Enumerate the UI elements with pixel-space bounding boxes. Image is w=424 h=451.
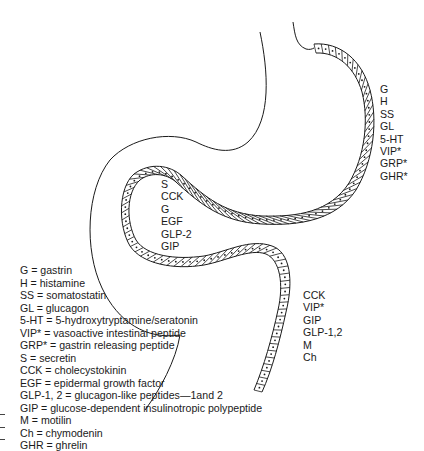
legend-entry: SS = somatostatin (20, 289, 262, 302)
legend-entry: G = gastrin (20, 264, 262, 277)
intestine-hormone-labels: CCK VIP* GIP GLP-1,2 M Ch (303, 289, 342, 363)
legend-entry: GL = glucagon (20, 302, 262, 315)
intestine-label: M (303, 339, 342, 351)
stomach-label: H (380, 95, 408, 107)
legend-entry: GLP-1, 2 = glucagon-like peptides—1and 2 (20, 389, 262, 402)
legend-entry: 5-HT = 5-hydroxytryptamine/seratonin (20, 314, 262, 327)
stomach-label: GHR* (380, 170, 408, 182)
margin-tick (0, 414, 5, 415)
stomach-hormone-labels: G H SS GL 5-HT VIP* GRP* GHR* (380, 83, 408, 182)
stomach-label: GRP* (380, 157, 408, 169)
duodenum-label: EGF (161, 215, 192, 227)
legend-entry: Ch = chymodenin (20, 427, 262, 440)
duodenum-label: S (161, 178, 192, 190)
duodenum-label: GIP (161, 240, 192, 252)
legend-entry: H = histamine (20, 277, 262, 290)
intestine-label: GLP-1,2 (303, 326, 342, 338)
margin-tick (0, 439, 5, 440)
stomach-label: 5-HT (380, 133, 408, 145)
intestine-label: GIP (303, 314, 342, 326)
abbreviation-legend: G = gastrin H = histamine SS = somatosta… (20, 264, 262, 451)
legend-entry: S = secretin (20, 352, 262, 365)
intestine-label: VIP* (303, 301, 342, 313)
legend-entry: M = motilin (20, 414, 262, 427)
duodenum-hormone-labels: S CCK G EGF GLP-2 GIP (161, 178, 192, 252)
legend-entry: EGF = epidermal growth factor (20, 377, 262, 390)
intestine-label: CCK (303, 289, 342, 301)
esophagus-outline (293, 22, 314, 49)
stomach-label: GL (380, 120, 408, 132)
legend-entry: VIP* = vasoactive intestinal peptide (20, 327, 262, 340)
duodenum-label: G (161, 203, 192, 215)
legend-entry: GRP* = gastrin releasing peptide (20, 339, 262, 352)
duodenum-label: CCK (161, 190, 192, 202)
intestine-label: Ch (303, 351, 342, 363)
stomach-label: VIP* (380, 145, 408, 157)
duodenum-label: GLP-2 (161, 228, 192, 240)
stomach-label: SS (380, 108, 408, 120)
legend-entry: GIP = glucose-dependent insulinotropic p… (20, 402, 262, 415)
legend-entry: CCK = cholecystokinin (20, 364, 262, 377)
stomach-label: G (380, 83, 408, 95)
legend-entry: GHR = ghrelin (20, 439, 262, 451)
margin-tick (0, 427, 5, 428)
